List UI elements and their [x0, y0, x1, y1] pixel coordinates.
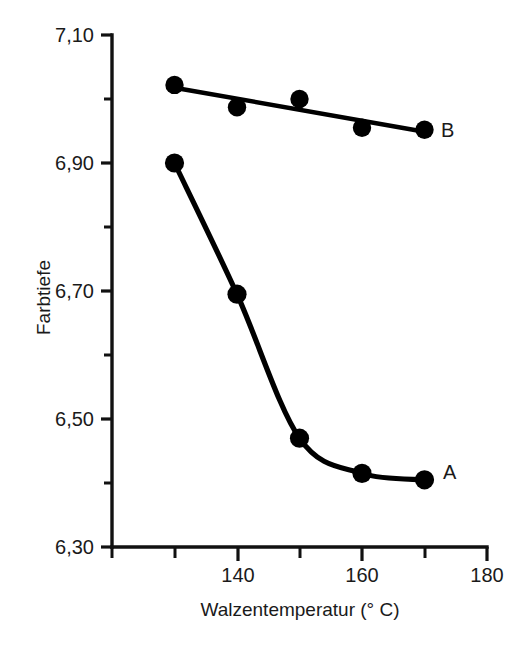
data-point	[290, 90, 308, 108]
series-label-b: B	[441, 120, 454, 140]
series-a-markers	[165, 153, 434, 489]
y-tick-label-650: 6,50	[28, 409, 94, 429]
x-axis-title: Walzentemperatur (° C)	[120, 600, 480, 619]
series-b-markers	[165, 76, 433, 139]
series-label-a: A	[443, 462, 456, 482]
y-tick-label-710: 7,10	[28, 25, 94, 45]
x-tick-label-140: 140	[208, 565, 268, 585]
data-point	[165, 76, 183, 94]
x-tick-label-160: 160	[332, 565, 392, 585]
data-point	[415, 470, 434, 489]
y-tick-label-690: 6,90	[28, 153, 94, 173]
y-tick-label-630: 6,30	[28, 537, 94, 557]
data-point	[228, 98, 246, 116]
y-axis-title: Farbtiefe	[34, 260, 53, 335]
data-point	[290, 429, 309, 448]
data-point	[352, 464, 371, 483]
data-point	[227, 285, 246, 304]
chart-figure: 7,10 6,90 6,70 6,50 6,30 140 160 180 Far…	[0, 0, 523, 648]
data-point	[165, 153, 184, 172]
x-tick-label-180: 180	[457, 565, 517, 585]
data-point	[353, 119, 371, 137]
x-axis-major-ticks	[238, 547, 487, 561]
data-point	[415, 121, 433, 139]
